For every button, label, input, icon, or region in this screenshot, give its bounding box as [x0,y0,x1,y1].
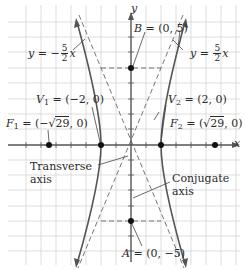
point-B [128,65,134,71]
point-V2-label: V2 = (2, 0) [168,94,227,107]
hyperbola-diagram [0,0,245,270]
point-F1-label: F1 = (−√29, 0) [6,118,88,131]
left-branch [77,22,101,264]
point-F2-label: F2 = (√29, 0) [170,118,243,131]
point-A-label: A = (0, −5) [122,248,185,259]
point-F2 [212,142,218,148]
tick-marks [26,37,221,251]
asymptote-negative-label: y = −52x [28,44,76,63]
conjugate-axis-label: Conjugate axis [172,172,229,198]
point-V1-label: V1 = (−2, 0) [36,94,104,107]
right-branch [161,22,185,264]
point-V1 [98,142,104,148]
point-A [128,218,134,224]
point-B-label: B = (0, 5) [134,23,188,34]
y-axis-label: y [131,3,137,14]
x-axis-label: x [234,138,240,149]
transverse-axis-label: Transverse axis [30,160,92,186]
point-F1 [46,142,52,148]
asymptote-positive-label: y = 52x [190,44,228,63]
point-V2 [158,142,164,148]
arrow-icon [74,18,80,28]
